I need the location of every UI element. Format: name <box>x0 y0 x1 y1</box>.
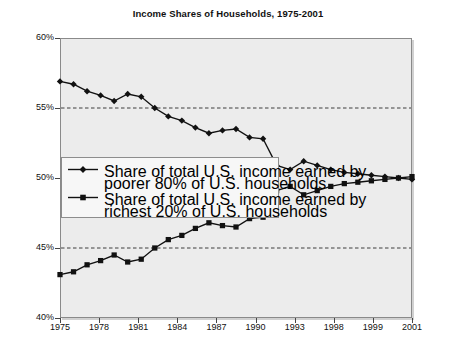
data-point-square <box>98 258 103 263</box>
data-point-square <box>125 259 130 264</box>
data-point-square <box>369 178 374 183</box>
data-point-square <box>193 226 198 231</box>
data-point-diamond <box>80 166 87 173</box>
data-point-diamond <box>57 78 63 84</box>
legend-label-line2: richest 20% of U.S. households <box>104 203 327 221</box>
chart-legend: Share of total U.S. income earned bypoor… <box>61 157 279 218</box>
income-shares-chart: Income Shares of Households, 1975-2001 4… <box>0 0 456 358</box>
data-point-diamond <box>233 126 239 132</box>
data-point-diamond <box>260 136 266 142</box>
data-point-square <box>233 224 238 229</box>
data-point-diamond <box>165 113 171 119</box>
data-point-diamond <box>179 117 185 123</box>
data-point-diamond <box>70 81 76 87</box>
legend-marker-square <box>66 192 100 203</box>
data-point-square <box>328 184 333 189</box>
data-point-square <box>179 233 184 238</box>
legend-marker-diamond <box>66 164 100 175</box>
data-point-square <box>220 223 225 228</box>
data-point-diamond <box>246 134 252 140</box>
data-point-diamond <box>206 130 212 136</box>
data-point-diamond <box>192 124 198 130</box>
data-point-diamond <box>111 98 117 104</box>
data-point-diamond <box>124 91 130 97</box>
data-point-square <box>57 272 62 277</box>
data-point-square <box>382 177 387 182</box>
data-point-square <box>84 262 89 267</box>
data-point-square <box>71 269 76 274</box>
data-point-square <box>166 237 171 242</box>
data-point-diamond <box>84 88 90 94</box>
data-point-diamond <box>368 172 374 178</box>
data-point-square <box>342 181 347 186</box>
data-point-square <box>409 174 414 179</box>
data-point-square <box>152 245 157 250</box>
data-point-diamond <box>97 92 103 98</box>
data-point-square <box>139 257 144 262</box>
data-point-square <box>112 252 117 257</box>
data-point-square <box>80 195 86 201</box>
data-point-square <box>396 175 401 180</box>
data-point-diamond <box>219 127 225 133</box>
